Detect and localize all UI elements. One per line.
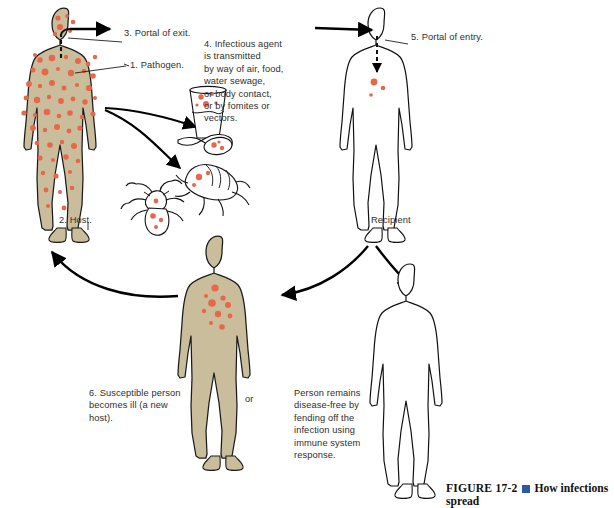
label-portal-of-entry: 5. Portal of entry. (411, 31, 483, 43)
flea-icon (175, 165, 250, 216)
disease-free-figure (370, 264, 442, 498)
leader-portal-exit (68, 38, 122, 42)
label-transmission: 4. Infectious agent is transmitted by wa… (204, 38, 314, 125)
label-pathogen: 1. Pathogen. (130, 59, 184, 71)
spoon-icon (178, 134, 233, 156)
label-disease-free: Person remains disease-free by fending o… (294, 387, 374, 461)
arrow-into-portal-of-entry (315, 28, 372, 30)
recipient-figure (315, 8, 412, 242)
label-host: 2. Host. (59, 214, 92, 226)
label-susceptible: 6. Susceptible person becomes ill (a new… (89, 387, 189, 424)
figure-number: FIGURE 17-2 (446, 482, 517, 495)
label-recipient: Recipient (371, 214, 411, 226)
figure-caption: FIGURE 17-2How infections spread (446, 482, 614, 508)
arrow-recipient-to-susceptible (282, 246, 368, 295)
susceptible-figure (178, 236, 250, 470)
host-figure (21, 8, 129, 242)
caption-bullet-icon (522, 485, 530, 493)
label-portal-of-exit: 3. Portal of exit. (124, 27, 190, 39)
leader-portal-entry (385, 40, 408, 44)
label-or: or (245, 393, 253, 405)
louse-icon (121, 180, 184, 235)
arrow-susceptible-to-host (52, 252, 178, 297)
